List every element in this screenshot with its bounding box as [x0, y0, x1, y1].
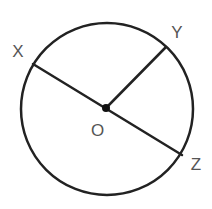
point-label-x: X [12, 42, 23, 61]
point-label-z: Z [191, 155, 201, 174]
center-label-o: O [91, 121, 104, 140]
circle-diagram-svg: X Y Z O [0, 0, 212, 209]
radius-oy [106, 47, 166, 108]
center-point-dot [102, 104, 110, 112]
circle-diagram: X Y Z O [0, 0, 212, 209]
point-label-y: Y [171, 23, 182, 42]
